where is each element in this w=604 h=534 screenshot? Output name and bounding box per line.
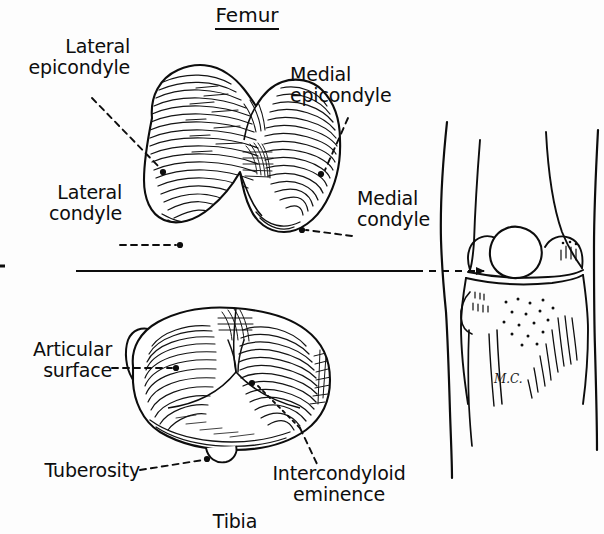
label-lateral-condyle: Lateral condyle (0, 182, 122, 225)
knee-anterior-drawing (441, 122, 598, 478)
intercondyloid-eminence-line1: Intercondyloid (254, 463, 424, 484)
lateral-epicondyle-line1: Lateral (0, 36, 130, 57)
dot-medial-condyle (299, 227, 305, 233)
artist-signature: M.C. (494, 372, 523, 386)
leader-medial-condyle (306, 230, 352, 236)
tibia-stipple (503, 298, 555, 347)
tuberosity-line1: Tuberosity (0, 460, 140, 481)
intercondyloid-eminence-line2: eminence (254, 484, 424, 505)
articular-surface-line1: Articular (0, 339, 112, 360)
dot-lateral-condyle (177, 242, 183, 248)
medial-epicondyle-line2: epicondyle (290, 85, 450, 106)
leader-intercondyloid-eminence (300, 428, 318, 466)
page-title-femur: Femur (182, 4, 312, 26)
dot-medial-epicondyle (318, 171, 324, 177)
label-articular-surface: Articular surface (0, 339, 112, 382)
dot-tuberosity (204, 456, 210, 462)
lateral-condyle-line1: Lateral (0, 182, 122, 203)
lateral-epicondyle-line2: epicondyle (0, 57, 130, 78)
label-tuberosity: Tuberosity (0, 460, 140, 481)
dot-lateral-epicondyle (160, 169, 166, 175)
medial-condyle-line1: Medial (357, 188, 497, 209)
medial-condyle-line2: condyle (357, 209, 497, 230)
articular-surface-line2: surface (0, 360, 112, 381)
lateral-condyle-line2: condyle (0, 203, 122, 224)
label-lateral-epicondyle: Lateral epicondyle (0, 36, 130, 79)
dot-articular-surface (173, 365, 179, 371)
joint-level-indicator (0, 266, 484, 271)
label-medial-epicondyle: Medial epicondyle (290, 64, 450, 107)
dot-intercondyloid-eminence (249, 380, 255, 386)
label-intercondyloid-eminence: Intercondyloid eminence (254, 463, 424, 506)
leader-tuberosity (140, 460, 203, 470)
anatomy-figure: Femur Lateral epicondyle Medial epicondy… (0, 0, 604, 534)
page-title-tibia: Tibia (170, 511, 300, 532)
medial-epicondyle-line1: Medial (290, 64, 450, 85)
label-medial-condyle: Medial condyle (357, 188, 497, 231)
tibia-bone-drawing (126, 308, 332, 463)
tibia-title-text: Tibia (213, 510, 257, 532)
femur-title-text: Femur (215, 3, 278, 30)
signature-text: M.C. (494, 372, 523, 386)
